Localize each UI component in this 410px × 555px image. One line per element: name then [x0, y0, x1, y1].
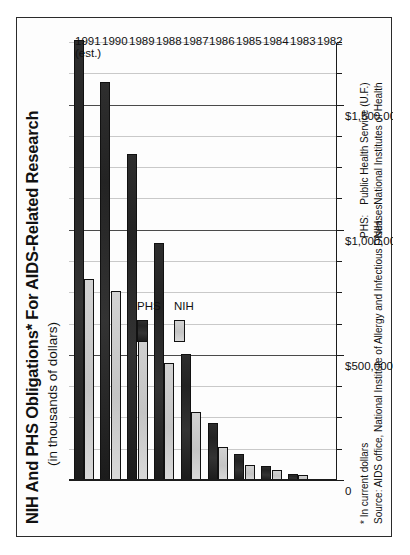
category-label-text: 1984: [263, 35, 289, 47]
axis-tick: [337, 480, 344, 481]
category-label-1988: 1988: [156, 18, 168, 35]
axis-tick: [337, 73, 342, 74]
bar-group: [176, 43, 203, 481]
bar-phs-1991: [74, 41, 84, 482]
abbreviation-key: PHS:: [358, 205, 372, 238]
category-label-1991: 1991(est.): [75, 18, 99, 35]
category-label-text: 1991(est.): [75, 35, 101, 59]
legend-swatch-nih: [174, 320, 185, 342]
plot-area: 1991(est.)199019891988198719861985198419…: [69, 43, 337, 481]
axis-tick: [337, 324, 342, 325]
value-axis-label-text: 0: [345, 485, 351, 497]
bar-phs-1987: [181, 354, 191, 481]
axis-tick: [337, 167, 342, 168]
category-label-1983: 1983: [290, 18, 302, 35]
category-label-text: 1986: [209, 35, 235, 47]
chart-figure: NIH And PHS Obligations* For AIDS-Relate…: [17, 18, 393, 538]
abbreviation-table: PHS:Public Health Service (U.F.)NIH:Nati…: [358, 82, 385, 238]
bar-group: [96, 43, 123, 481]
bar-group: [123, 43, 150, 481]
bar-phs-1988: [154, 243, 164, 481]
legend-label-nih: NIH: [174, 300, 194, 312]
category-label-1989: 1989: [129, 18, 141, 35]
abbreviation-definition: National Institutes of Health: [372, 82, 386, 204]
bar-group: [257, 43, 284, 481]
bar-group: [230, 43, 257, 481]
value-axis-line: [69, 480, 337, 482]
axis-tick: [337, 417, 342, 418]
abbreviation-definition: Public Health Service (U.F.): [358, 82, 372, 204]
bar-phs-1990: [100, 82, 110, 481]
axis-tick: [337, 105, 344, 106]
footnote-line-2: Source: AIDS office, National Institute …: [372, 205, 386, 524]
axis-tick: [337, 292, 342, 293]
category-label-1985: 1985: [236, 18, 248, 35]
bar-nih-1991: [84, 279, 94, 481]
bar-group: [69, 43, 96, 481]
category-label-1986: 1986: [209, 18, 221, 35]
bar-phs-1986: [208, 423, 218, 481]
axis-tick: [337, 136, 342, 137]
legend-item-phs[interactable]: PHS: [137, 300, 167, 342]
chart-title: NIH And PHS Obligations* For AIDS-Relate…: [23, 24, 42, 524]
bar-nih-1987: [191, 412, 201, 481]
printed-page-frame: NIH And PHS Obligations* For AIDS-Relate…: [16, 17, 392, 537]
abbreviation-row: PHS:Public Health Service (U.F.): [358, 82, 372, 238]
value-axis-label: 0: [345, 479, 357, 485]
legend-swatch-phs: [137, 320, 148, 342]
bar-nih-1988: [164, 363, 174, 481]
legend-label-wrap: PHS: [137, 300, 167, 313]
title-block: NIH And PHS Obligations* For AIDS-Relate…: [23, 24, 60, 524]
bar-nih-1990: [111, 291, 121, 481]
chart-rotation-wrapper: NIH And PHS Obligations* For AIDS-Relate…: [17, 18, 393, 538]
legend-item-nih[interactable]: NIH: [174, 300, 204, 342]
category-label-text: 1988: [156, 35, 182, 47]
value-axis-label: $500,000: [345, 312, 357, 360]
abbreviation-block: PHS:Public Health Service (U.F.)NIH:Nati…: [358, 82, 385, 238]
bar-group: [283, 43, 310, 481]
category-label-text: 1989: [129, 35, 155, 47]
category-label-text: 1987: [183, 35, 209, 47]
value-axis-label: $1,000,000: [345, 177, 357, 235]
bar-group: [310, 43, 337, 481]
plot-inner: [69, 43, 337, 481]
bar-group: [203, 43, 230, 481]
legend-label-phs: PHS: [137, 300, 161, 312]
category-axis-line: [336, 43, 338, 481]
bar-nih-1986: [218, 448, 228, 482]
footnote-block: * In current dollarsSource: AIDS office,…: [358, 205, 385, 524]
category-label-text: 1985: [236, 35, 262, 47]
abbreviation-key: NIH:: [372, 205, 386, 238]
axis-tick: [337, 355, 344, 356]
category-label-1987: 1987: [183, 18, 195, 35]
bar-phs-1989: [127, 154, 137, 481]
value-axis-label: $1,500,000: [345, 52, 357, 110]
chart-subtitle: (in thousands of dollars): [45, 24, 60, 466]
legend-label-wrap: NIH: [174, 300, 204, 313]
category-label-text: 1983: [290, 35, 316, 47]
footnote-line-1: * In current dollars: [358, 205, 372, 524]
category-label-1982: 1982: [317, 18, 329, 35]
bar-nih-1989: [138, 329, 148, 481]
axis-tick: [337, 386, 342, 387]
axis-tick: [337, 198, 342, 199]
bar-group: [149, 43, 176, 481]
abbreviation-row: NIH:National Institutes of Health: [372, 82, 386, 238]
category-label-1990: 1990: [102, 18, 114, 35]
category-label-text: 1982: [317, 35, 343, 47]
axis-tick: [337, 449, 342, 450]
category-label-text: 1990: [102, 35, 128, 47]
bar-phs-1985: [234, 454, 244, 481]
axis-tick: [337, 230, 344, 231]
axis-tick: [337, 261, 342, 262]
chart-legend: PHSNIH: [137, 300, 211, 342]
category-label-1984: 1984: [263, 18, 275, 35]
category-label-annotation: (est.): [75, 47, 101, 59]
